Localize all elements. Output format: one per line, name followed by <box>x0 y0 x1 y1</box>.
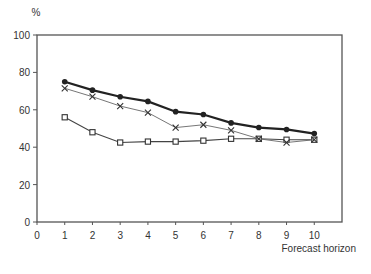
circle-marker <box>284 127 290 133</box>
square-marker <box>173 139 178 144</box>
y-tick-label: 20 <box>19 180 31 191</box>
circle-marker <box>90 87 96 93</box>
circle-marker <box>256 125 262 131</box>
plot-frame <box>37 35 342 222</box>
circle-marker <box>311 131 317 137</box>
y-tick-label: 0 <box>24 217 30 228</box>
square-marker <box>90 130 95 135</box>
x-tick-label: 8 <box>256 230 262 241</box>
cross-marker <box>117 103 123 109</box>
y-axis-label: % <box>32 7 41 18</box>
square-marker <box>201 138 206 143</box>
x-tick-label: 6 <box>201 230 207 241</box>
x-tick-label: 1 <box>62 230 68 241</box>
series-crosses <box>62 85 318 145</box>
cross-marker <box>145 110 151 116</box>
y-tick-label: 100 <box>13 30 30 41</box>
y-tick-label: 40 <box>19 142 31 153</box>
series-line <box>65 88 315 142</box>
cross-marker <box>62 85 68 91</box>
line-chart: 020406080100 012345678910 % Forecast hor… <box>0 0 371 274</box>
x-tick-label: 10 <box>309 230 321 241</box>
circle-marker <box>228 120 234 126</box>
x-tick-label: 4 <box>145 230 151 241</box>
square-marker <box>228 136 233 141</box>
cross-marker <box>89 94 95 100</box>
square-marker <box>145 139 150 144</box>
series-circles <box>62 79 317 136</box>
square-marker <box>118 140 123 145</box>
x-tick-label: 7 <box>228 230 234 241</box>
plot-border <box>37 35 342 222</box>
circle-marker <box>117 94 123 100</box>
square-marker <box>284 137 289 142</box>
x-tick-label: 2 <box>90 230 96 241</box>
x-tick-label: 3 <box>117 230 123 241</box>
circle-marker <box>62 79 68 85</box>
circle-marker <box>201 112 207 118</box>
x-axis: 012345678910 <box>34 222 320 241</box>
y-tick-label: 60 <box>19 105 31 116</box>
x-tick-label: 0 <box>34 230 40 241</box>
series-line <box>65 117 315 142</box>
y-axis: 020406080100 <box>13 30 37 228</box>
x-axis-title: Forecast horizon <box>282 243 356 254</box>
y-tick-label: 80 <box>19 67 31 78</box>
square-marker <box>62 115 67 120</box>
x-tick-label: 5 <box>173 230 179 241</box>
series-group <box>62 79 318 146</box>
x-tick-label: 9 <box>284 230 290 241</box>
circle-marker <box>173 109 179 115</box>
circle-marker <box>145 99 151 105</box>
